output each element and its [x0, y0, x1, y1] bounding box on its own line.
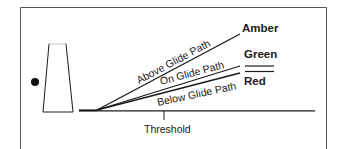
amber-light-label: Amber: [242, 22, 279, 34]
threshold-label: Threshold: [144, 123, 191, 135]
aircraft-dot-icon: [31, 78, 39, 86]
red-light-label: Red: [244, 75, 266, 87]
green-light-label: Green: [244, 48, 277, 60]
aircraft-trapezoid-icon: [43, 44, 73, 112]
glide-path-diagram: Threshold Above Glide Path On Glide Path…: [0, 0, 343, 149]
